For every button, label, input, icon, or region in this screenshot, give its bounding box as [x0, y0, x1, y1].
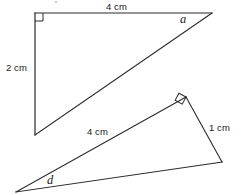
lower-triangle-hypotenuse	[16, 97, 186, 192]
label-top-horizontal-length: 4 cm	[106, 1, 127, 12]
label-middle-hypotenuse-length: 4 cm	[87, 126, 108, 137]
label-angle-d: d	[47, 174, 53, 187]
label-right-short-length: 1 cm	[209, 122, 230, 133]
label-angle-a: a	[180, 13, 186, 26]
triangles-svg	[0, 0, 241, 195]
upper-triangle	[35, 13, 212, 135]
geometry-figure: 4 cm 2 cm a 4 cm 1 cm d	[0, 0, 241, 195]
scan-artifact-speck	[55, 1, 57, 3]
upper-triangle-right-angle-icon	[35, 13, 43, 21]
label-left-vertical-length: 2 cm	[6, 62, 27, 73]
upper-triangle-hypotenuse	[35, 13, 212, 135]
